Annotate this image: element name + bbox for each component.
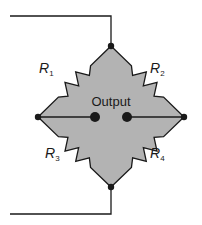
output-terminal-right — [122, 112, 132, 122]
wheatstone-bridge-diagram: Output R1 R2 R3 R4 — [0, 0, 202, 225]
resistor-r3-name: R — [45, 145, 55, 161]
resistor-r2-name: R — [150, 60, 160, 76]
node-right — [181, 114, 187, 120]
resistor-r1-name: R — [39, 60, 49, 76]
bottom-lead-wire — [10, 187, 111, 214]
resistor-r4-subscript: 4 — [160, 154, 165, 163]
top-lead-wire — [10, 16, 111, 46]
resistor-label-r2: R2 — [150, 60, 165, 78]
node-left — [35, 114, 41, 120]
resistor-r2-subscript: 2 — [160, 69, 165, 78]
resistor-label-r1: R1 — [39, 60, 54, 78]
node-bottom — [108, 184, 114, 190]
resistor-r1-subscript: 1 — [49, 69, 54, 78]
resistor-label-r3: R3 — [45, 145, 60, 163]
node-top — [108, 43, 114, 49]
output-terminal-left — [90, 112, 100, 122]
resistor-r3-subscript: 3 — [55, 154, 60, 163]
output-label: Output — [91, 94, 130, 109]
resistor-label-r4: R4 — [150, 145, 165, 163]
resistor-r4-name: R — [150, 145, 160, 161]
